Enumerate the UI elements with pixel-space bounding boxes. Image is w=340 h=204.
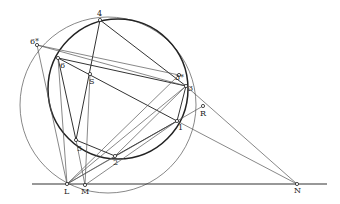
- thin-circle: [20, 17, 196, 193]
- label-s: S: [89, 77, 94, 86]
- label-1: 1: [178, 123, 183, 132]
- label-6-star: 6*: [30, 37, 39, 46]
- point-s: [88, 72, 91, 75]
- label-l: L: [64, 187, 70, 196]
- label-5: 5: [77, 144, 82, 153]
- point-6: [56, 56, 59, 59]
- thick-circle: [48, 19, 188, 159]
- construction-lines: [37, 45, 297, 185]
- point-5: [74, 138, 77, 141]
- label-3-star: 3*: [175, 73, 184, 82]
- geometry-diagram: 4 6* 6 S 3* 3 R 1 5 2 L M N: [0, 0, 340, 204]
- label-n: N: [294, 186, 301, 195]
- point-r: [201, 104, 204, 107]
- point-4: [98, 18, 101, 21]
- hexagon-edges: [58, 20, 186, 156]
- label-6: 6: [60, 61, 65, 70]
- points: [35, 18, 298, 186]
- label-2: 2: [113, 158, 118, 167]
- label-3: 3: [188, 84, 193, 93]
- label-4: 4: [97, 9, 102, 18]
- point-l: [65, 182, 68, 185]
- label-m: M: [81, 187, 89, 196]
- label-r: R: [200, 109, 207, 118]
